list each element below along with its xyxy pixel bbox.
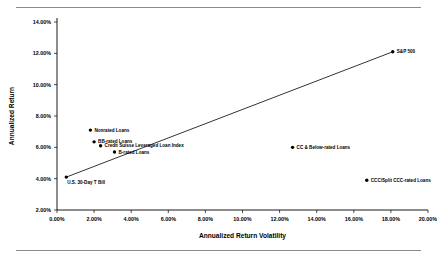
data-point: B-rated Loans — [113, 150, 150, 155]
chart-page: 2.00%4.00%6.00%8.00%10.00%12.00%14.00% 0… — [0, 0, 437, 261]
data-point: U.S. 30-Day T Bill — [65, 175, 105, 185]
data-point-label: CC & Below-rated Loans — [297, 145, 351, 150]
data-point-marker — [92, 140, 95, 143]
data-point-marker — [89, 128, 92, 131]
data-point: S&P 500 — [391, 49, 415, 54]
data-point-marker — [365, 179, 368, 182]
y-axis-ticks: 2.00%4.00%6.00%8.00%10.00%12.00%14.00% — [33, 19, 57, 213]
chart-svg: 2.00%4.00%6.00%8.00%10.00%12.00%14.00% 0… — [0, 12, 437, 248]
y-tick-label: 2.00% — [36, 207, 51, 213]
x-tick-label: 8.00% — [198, 216, 213, 222]
x-tick-label: 2.00% — [86, 216, 101, 222]
data-point-label: Nonrated Loans — [94, 128, 129, 133]
y-tick-label: 4.00% — [36, 176, 51, 182]
bottom-divider — [16, 250, 421, 251]
y-tick-label: 12.00% — [33, 50, 51, 56]
data-point-label: CCC/Split CCC-rated Loans — [371, 178, 431, 183]
x-axis-title: Annualized Return Volatility — [199, 232, 286, 240]
top-divider — [16, 7, 421, 8]
data-points-group: U.S. 30-Day T BillNonrated LoansBB-rated… — [65, 49, 432, 185]
x-tick-label: 0.00% — [49, 216, 64, 222]
data-point-label: U.S. 30-Day T Bill — [67, 180, 105, 185]
data-point-marker — [391, 50, 394, 53]
data-point-label: S&P 500 — [397, 49, 416, 54]
x-tick-label: 4.00% — [124, 216, 139, 222]
x-tick-label: 16.00% — [345, 216, 363, 222]
x-tick-label: 12.00% — [270, 216, 288, 222]
data-point: CC & Below-rated Loans — [291, 145, 351, 150]
y-axis-title: Annualized Return — [8, 87, 15, 145]
y-tick-label: 10.00% — [33, 82, 51, 88]
data-point-marker — [291, 146, 294, 149]
y-tick-label: 6.00% — [36, 144, 51, 150]
y-axis: 2.00%4.00%6.00%8.00%10.00%12.00%14.00% — [33, 18, 57, 213]
x-tick-label: 20.00% — [419, 216, 437, 222]
data-point-marker — [113, 150, 116, 153]
data-point: CCC/Split CCC-rated Loans — [365, 178, 431, 183]
x-tick-label: 6.00% — [161, 216, 176, 222]
trend-line — [66, 52, 392, 177]
data-point-marker — [65, 175, 68, 178]
data-point: Credit Suisse Leveraged Loan Index — [99, 143, 184, 148]
x-tick-label: 10.00% — [233, 216, 251, 222]
data-point-label: Credit Suisse Leveraged Loan Index — [105, 143, 185, 148]
trend-line-group — [66, 52, 392, 177]
y-tick-label: 8.00% — [36, 113, 51, 119]
x-axis-ticks: 0.00%2.00%4.00%6.00%8.00%10.00%12.00%14.… — [49, 210, 437, 222]
data-point-label: B-rated Loans — [119, 150, 150, 155]
data-point: Nonrated Loans — [89, 128, 130, 133]
y-tick-label: 14.00% — [33, 19, 51, 25]
x-tick-label: 14.00% — [308, 216, 326, 222]
x-tick-label: 18.00% — [382, 216, 400, 222]
data-point-marker — [99, 144, 102, 147]
x-axis: 0.00%2.00%4.00%6.00%8.00%10.00%12.00%14.… — [49, 210, 437, 222]
scatter-chart: 2.00%4.00%6.00%8.00%10.00%12.00%14.00% 0… — [0, 12, 437, 248]
